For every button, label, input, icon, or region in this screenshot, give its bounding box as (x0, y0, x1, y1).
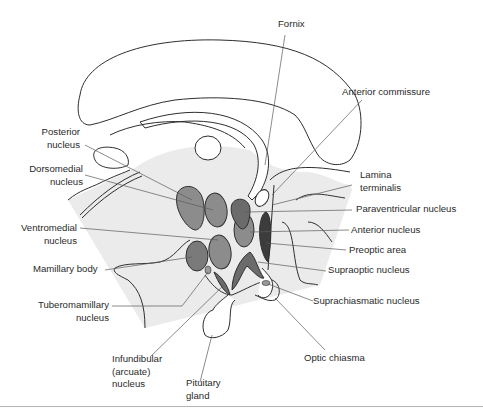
label-posterior-nucleus: Posterior nucleus (20, 126, 80, 151)
hypothalamus-diagram: Fornix Anterior commissure Posterior nuc… (0, 0, 483, 413)
label-supraoptic-nucleus: Supraoptic nucleus (328, 264, 410, 277)
label-anterior-nucleus: Anterior nucleus (351, 224, 420, 237)
thalamus-left-lobe (94, 147, 129, 168)
label-pituitary-gland: Pituitary gland (186, 377, 221, 402)
label-mamillary-body: Mamillary body (33, 263, 98, 276)
tuberomamillary-nucleus-shape (205, 266, 211, 274)
leader-pituitary (200, 335, 212, 382)
shaded-brain-region (68, 146, 352, 328)
label-ventromedial-nucleus: Ventromedial nucleus (10, 222, 77, 247)
interthalamic-adhesion (195, 136, 221, 160)
bottom-divider (0, 406, 483, 407)
label-dorsomedial-nucleus: Dorsomedial nucleus (10, 163, 83, 188)
label-infundibular-nucleus: Infundibular (arcuate) nucleus (112, 353, 162, 391)
label-fornix: Fornix (278, 18, 305, 31)
label-anterior-commissure: Anterior commissure (342, 86, 430, 99)
label-optic-chiasma: Optic chiasma (304, 352, 365, 365)
suprachiasmatic-nucleus-shape (262, 281, 270, 286)
label-preoptic-area: Preoptic area (349, 244, 406, 257)
mamillary-body (186, 241, 208, 271)
label-paraventricular-nucleus: Paraventricular nucleus (356, 203, 456, 216)
label-lamina-terminalis: Lamina terminalis (360, 169, 401, 194)
label-suprachiasmatic-nucleus: Suprachiasmatic nucleus (313, 295, 420, 308)
label-tuberomamillary-nucleus: Tuberomamillary nucleus (25, 299, 109, 324)
